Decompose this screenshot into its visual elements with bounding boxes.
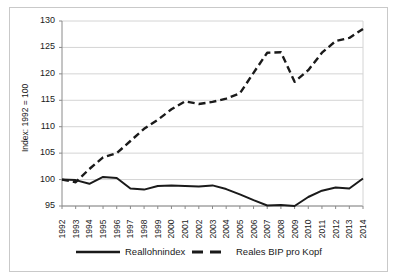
chart-figure: Index: 1992 = 100 9510010511011512012513… bbox=[0, 0, 397, 280]
legend-item-reallohnindex: Reallohnindex bbox=[125, 246, 185, 257]
chart-plot bbox=[0, 0, 397, 280]
series-line-reales-bip-pro-kopf bbox=[62, 29, 363, 182]
series-line-reallohnindex bbox=[62, 177, 363, 206]
legend-item-reales-bip-pro-kopf: Reales BIP pro Kopf bbox=[236, 246, 322, 257]
